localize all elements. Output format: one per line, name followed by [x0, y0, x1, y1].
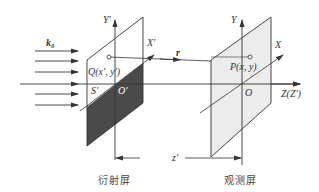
r-vector-label: r	[176, 48, 180, 58]
y-axis-label: Y	[231, 15, 237, 25]
x-prime-axis-label: X'	[147, 38, 155, 48]
z-axis-label: Z(Z')	[281, 89, 301, 99]
diffraction-screen-caption: 衍射屏	[98, 176, 131, 186]
point-q-label: Q(x', y')	[88, 67, 120, 77]
aperture-label: S'	[91, 86, 98, 96]
wave-vector-label: k₀	[46, 38, 55, 48]
x-axis-label: X	[275, 40, 281, 50]
y-prime-axis-label: Y'	[103, 15, 111, 25]
point-p	[248, 55, 252, 59]
observation-screen-caption: 观测屏	[224, 176, 257, 186]
incident-wave-arrows	[35, 51, 78, 105]
r-vector-arrow	[160, 59, 180, 60]
diffraction-diagram: k₀ Y' X' Q(x', y') S' O' r Y X P(x, y) O…	[0, 0, 319, 192]
distance-label: z'	[172, 153, 178, 163]
diagram-graphics	[0, 0, 319, 192]
point-p-label: P(x, y)	[230, 62, 257, 72]
point-q	[107, 55, 111, 59]
origin-label: O	[245, 88, 252, 98]
observation-screen	[211, 17, 271, 157]
origin-prime-label: O'	[118, 86, 127, 96]
